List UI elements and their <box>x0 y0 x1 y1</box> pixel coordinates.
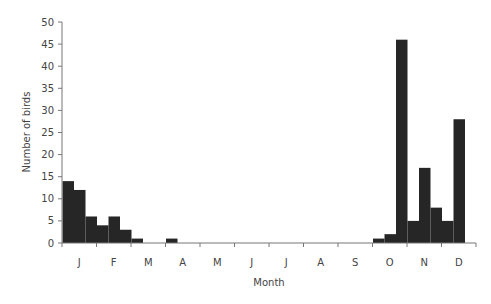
bar <box>442 221 454 243</box>
y-axis: 05101520253035404550 <box>41 17 62 249</box>
x-tick-label: F <box>111 257 117 268</box>
x-tick-label: O <box>386 257 394 268</box>
bar <box>97 225 109 243</box>
y-tick-label: 10 <box>41 193 54 204</box>
bar <box>132 239 144 243</box>
bar <box>454 119 466 243</box>
y-axis-title: Number of birds <box>21 92 32 173</box>
bar <box>120 230 132 243</box>
y-tick-label: 45 <box>41 39 54 50</box>
bar <box>419 168 431 243</box>
bar <box>63 181 75 243</box>
x-tick-label: J <box>77 257 81 268</box>
bar <box>385 234 397 243</box>
y-tick-label: 50 <box>41 17 54 28</box>
x-axis-title: Month <box>253 277 284 288</box>
bar <box>86 216 98 243</box>
bars <box>63 40 466 243</box>
x-tick-label: A <box>179 257 186 268</box>
x-tick-label: N <box>421 257 428 268</box>
bird-count-bar-chart: 05101520253035404550 JFMAMJJASOND Month … <box>0 0 491 304</box>
y-tick-label: 5 <box>48 215 54 226</box>
bar <box>74 190 86 243</box>
x-tick-label: J <box>249 257 253 268</box>
bar <box>396 40 408 243</box>
x-tick-label: M <box>144 257 153 268</box>
y-tick-label: 35 <box>41 83 54 94</box>
x-tick-label: M <box>213 257 222 268</box>
bar <box>408 221 420 243</box>
bar <box>431 208 443 243</box>
y-tick-label: 30 <box>41 105 54 116</box>
x-axis: JFMAMJJASOND <box>62 243 476 268</box>
bar <box>109 216 121 243</box>
x-tick-label: J <box>284 257 288 268</box>
y-tick-label: 0 <box>48 238 54 249</box>
x-tick-label: S <box>352 257 358 268</box>
bar <box>166 239 178 243</box>
bar <box>373 239 385 243</box>
x-tick-label: A <box>317 257 324 268</box>
y-tick-label: 25 <box>41 127 54 138</box>
x-tick-label: D <box>455 257 463 268</box>
y-tick-label: 20 <box>41 149 54 160</box>
y-tick-label: 15 <box>41 171 54 182</box>
y-tick-label: 40 <box>41 61 54 72</box>
